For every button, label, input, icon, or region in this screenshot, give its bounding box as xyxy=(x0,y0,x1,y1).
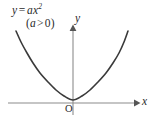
parabola-curve xyxy=(16,31,128,100)
equation-exponent: 2 xyxy=(38,2,42,11)
equation-equals: = xyxy=(17,4,27,16)
y-axis-label: y xyxy=(75,13,80,25)
condition-operator: > xyxy=(36,17,45,29)
y-axis-arrowhead-icon xyxy=(70,25,77,32)
x-axis-arrowhead-icon xyxy=(134,100,141,107)
condition-close-paren: ) xyxy=(51,17,55,29)
parabola-figure: y=ax2 (a>0) y x O xyxy=(0,0,154,127)
equation-label: y=ax2 xyxy=(12,5,42,17)
origin-label: O xyxy=(65,104,73,115)
condition-label: (a>0) xyxy=(26,18,55,30)
x-axis-label: x xyxy=(142,96,147,108)
y-axis xyxy=(70,25,77,116)
